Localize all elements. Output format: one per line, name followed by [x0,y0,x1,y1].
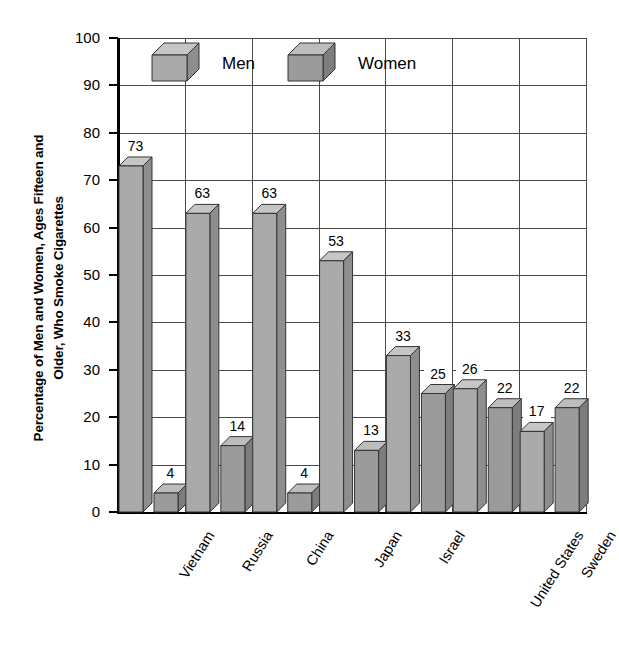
legend-cube-women [288,43,335,81]
bar-value-label-men-israel: 33 [389,329,417,344]
bar-value-label-women-sweden: 22 [558,381,586,396]
bar-value-label-men-japan: 53 [322,234,350,249]
bar-value-label-women-japan: 13 [357,423,385,438]
bar-value-label-men-united-states: 26 [456,362,484,377]
legend-cube-front [152,55,187,81]
bar-value-label-women-israel: 25 [424,367,452,382]
bar-value-label-women-russia: 14 [223,419,251,434]
bar-value-label-women-vietnam: 4 [157,466,185,481]
bar-value-label-men-russia: 63 [188,186,216,201]
legend-cube-front [288,55,323,81]
legend-label-men: Men [222,54,255,74]
bar-value-label-women-china: 4 [290,466,318,481]
bar-value-label-men-china: 63 [255,186,283,201]
bar-value-label-women-united-states: 22 [491,381,519,396]
bar-value-label-men-vietnam: 73 [122,139,150,154]
bar-value-label-men-sweden: 17 [523,404,551,419]
legend-cube-men [152,43,199,81]
legend-label-women: Women [358,54,416,74]
